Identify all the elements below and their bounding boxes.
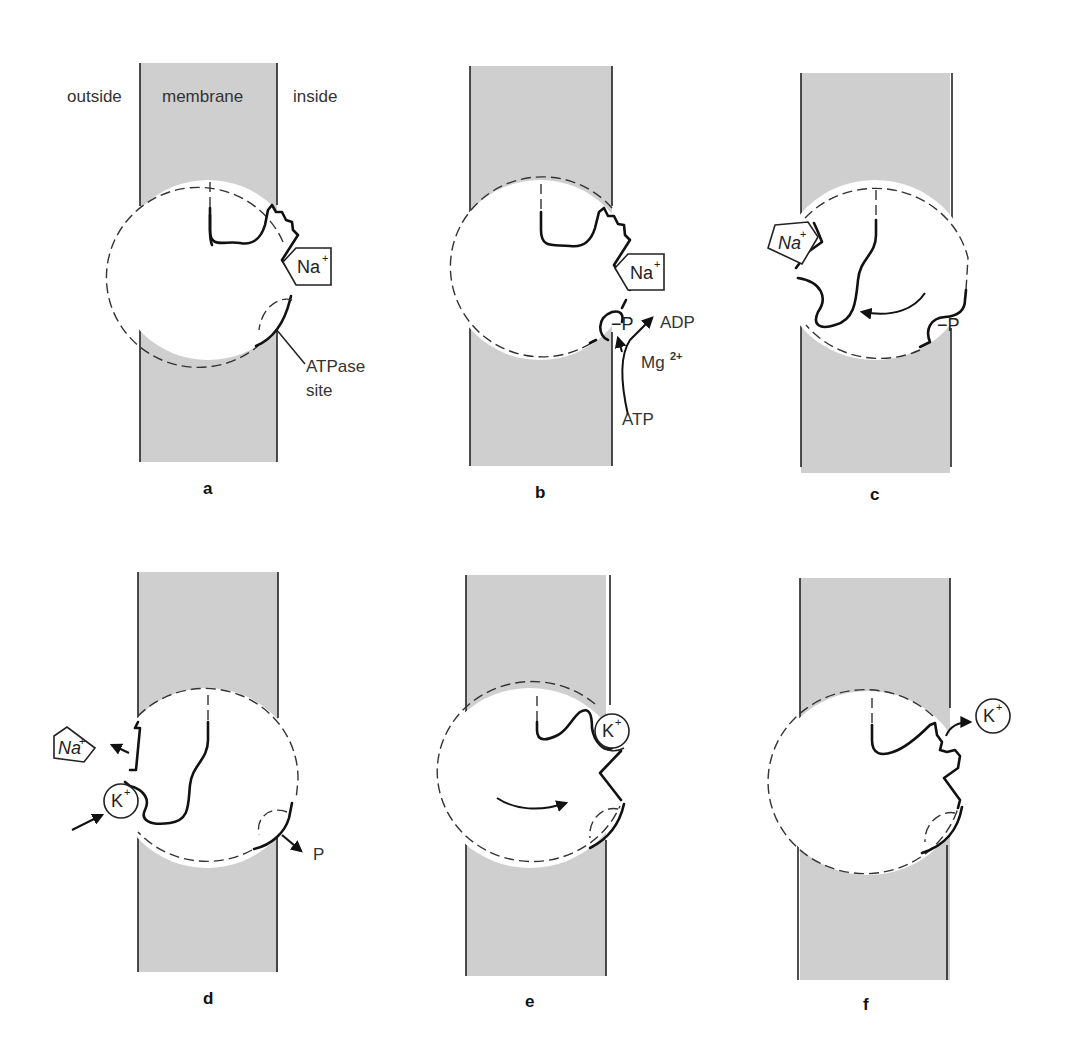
adp-label: ADP <box>660 313 695 332</box>
pump-protein <box>435 688 625 868</box>
ion-charge: + <box>654 258 660 270</box>
panel-letter: b <box>535 483 545 502</box>
panel-b: Na + −P ADP Mg 2+ ATP b <box>448 66 695 502</box>
atp-label: ATP <box>622 410 654 429</box>
panel-e: K + e <box>435 575 629 1011</box>
panel-a: Na + ATPase site outside membrane inside… <box>67 63 365 498</box>
panel-f: K + f <box>768 578 1010 1014</box>
magnesium-charge: 2+ <box>670 350 683 362</box>
ion-label: K <box>983 706 995 726</box>
ion-charge: + <box>615 716 621 728</box>
phosphate-label: −P <box>937 315 960 335</box>
panel-letter: a <box>203 479 213 498</box>
site-label: site <box>306 381 332 400</box>
outside-label: outside <box>67 87 122 106</box>
panel-letter: f <box>863 995 869 1014</box>
ion-charge: + <box>322 252 328 264</box>
ion-charge: + <box>124 786 130 798</box>
inside-label: inside <box>293 87 337 106</box>
ion-label: Na <box>630 263 654 283</box>
ion-charge: + <box>996 701 1002 713</box>
atpase-label: ATPase <box>306 357 365 376</box>
ion-label: Na <box>778 233 801 253</box>
membrane-label: membrane <box>162 87 243 106</box>
phosphate-label: P <box>313 845 324 864</box>
panel-letter: d <box>203 989 213 1008</box>
ion-label: Na <box>297 257 321 277</box>
panel-letter: c <box>870 485 879 504</box>
panel-letter: e <box>525 992 534 1011</box>
ion-charge: + <box>800 228 806 240</box>
ion-label: K <box>111 791 123 811</box>
phosphate-label: −P <box>611 314 634 334</box>
pump-cycle-diagram: Na + ATPase site outside membrane inside… <box>0 0 1068 1048</box>
ion-label: Na <box>58 738 81 758</box>
panel-d: K + Na + P d <box>54 572 324 1008</box>
magnesium-label: Mg <box>641 353 665 372</box>
ion-label: K <box>602 721 614 741</box>
ion-charge: + <box>79 735 85 747</box>
panel-c: Na + −P c <box>768 73 970 504</box>
